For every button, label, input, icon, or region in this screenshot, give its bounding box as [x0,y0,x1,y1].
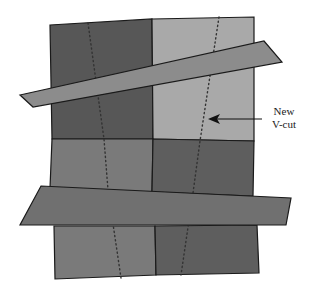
cut-diagram [0,0,312,297]
v-cut-label: New V-cut [264,105,304,131]
middle-right-panel [152,139,254,196]
middle-left-panel [50,139,153,192]
bottom-right-panel [155,225,259,275]
bottom-left-panel [54,226,156,279]
label-line-2: V-cut [264,118,304,131]
label-line-1: New [264,105,304,118]
